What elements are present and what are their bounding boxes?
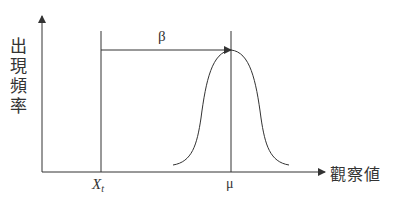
diagram-canvas: 出 現 頻 率 觀察値 Xt μ β: [0, 0, 398, 206]
y-axis-label-char: 率: [7, 96, 29, 116]
shift-label: β: [158, 28, 166, 45]
x-axis-label: 觀察値: [330, 161, 381, 185]
y-axis-label: 出 現 頻 率: [7, 36, 29, 116]
y-axis-label-char: 出: [7, 36, 29, 56]
threshold-label-subscript: t: [101, 183, 104, 194]
threshold-label: Xt: [92, 176, 104, 194]
threshold-label-main: X: [92, 176, 101, 192]
y-axis-label-char: 頻: [7, 76, 29, 96]
mean-label: μ: [226, 176, 234, 192]
y-axis-label-char: 現: [7, 56, 29, 76]
